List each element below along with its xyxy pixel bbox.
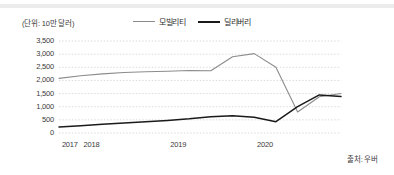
- y-tick-label: 2,000: [20, 75, 54, 84]
- y-tick-label: 3,000: [20, 49, 54, 58]
- x-tick-label: 2019: [170, 140, 186, 149]
- y-tick-label: 0: [20, 128, 54, 137]
- plot-area: [0, 0, 394, 175]
- x-tick-label: 2017: [62, 140, 78, 149]
- y-tick-label: 1,500: [20, 89, 54, 98]
- chart-figure: (단위: 10만 달러) 모빌리티 딜리버리 05001,0001,5002,0…: [0, 0, 394, 175]
- source-note: 출처: 우버: [347, 153, 378, 164]
- series-line-mobility: [59, 54, 341, 112]
- y-tick-label: 500: [20, 115, 54, 124]
- y-tick-label: 3,500: [20, 36, 54, 45]
- y-tick-label: 1,000: [20, 102, 54, 111]
- chart-canvas: [0, 0, 394, 175]
- x-tick-label: 2018: [84, 140, 100, 149]
- x-tick-label: 2020: [257, 140, 273, 149]
- y-tick-label: 2,500: [20, 62, 54, 71]
